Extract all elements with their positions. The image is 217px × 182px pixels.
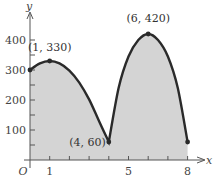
point-annotation: (4, 60) bbox=[69, 136, 106, 149]
y-tick-label: 200 bbox=[5, 94, 26, 107]
data-point bbox=[47, 59, 52, 64]
data-point bbox=[106, 140, 111, 145]
data-point bbox=[185, 140, 190, 145]
chart: 158100200300400yxO(1, 330)(4, 60)(6, 420… bbox=[0, 0, 217, 182]
point-annotation: (1, 330) bbox=[28, 41, 72, 54]
origin-label: O bbox=[18, 165, 27, 178]
x-axis-label: x bbox=[206, 154, 213, 167]
x-tick-label: 5 bbox=[125, 165, 132, 178]
y-tick-label: 300 bbox=[5, 64, 26, 77]
x-tick-label: 8 bbox=[184, 165, 191, 178]
y-tick-label: 100 bbox=[5, 124, 26, 137]
point-annotation: (6, 420) bbox=[126, 12, 170, 25]
data-point bbox=[28, 68, 33, 73]
data-point bbox=[146, 32, 151, 37]
y-tick-label: 400 bbox=[5, 34, 26, 47]
y-axis-label: y bbox=[25, 0, 33, 13]
x-tick-label: 1 bbox=[46, 165, 53, 178]
